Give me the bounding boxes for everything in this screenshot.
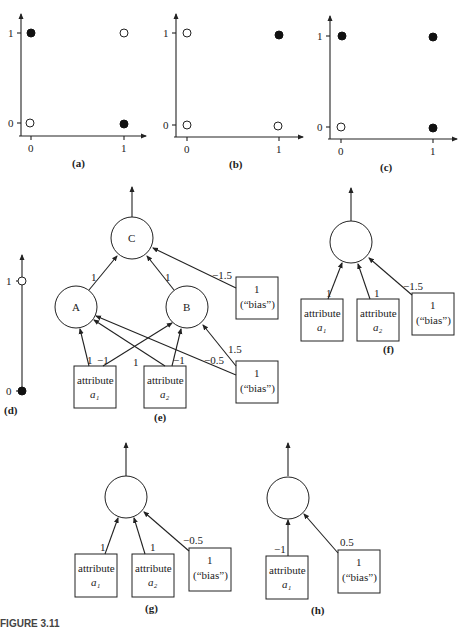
svg-text:1: 1	[87, 354, 93, 366]
output-node	[105, 476, 147, 518]
svg-text:a₁: a₁	[282, 578, 292, 590]
svg-text:attribute: attribute	[304, 307, 341, 319]
svg-text:a₂: a₂	[160, 388, 170, 400]
panel-label-b: (b)	[229, 158, 243, 171]
x-tick-1: 1	[430, 145, 436, 157]
node-C-label: C	[128, 232, 135, 244]
point-open	[274, 122, 282, 130]
network-g: attribute a₁ attribute a₂ 1 (“bias”) 1 1…	[75, 443, 231, 615]
input-a2	[144, 366, 186, 408]
panel-label-h: (h)	[311, 604, 325, 617]
panel-label-d: (d)	[4, 404, 18, 417]
svg-text:a₁: a₁	[90, 388, 100, 400]
svg-text:1: 1	[254, 367, 260, 379]
svg-text:1: 1	[326, 287, 332, 299]
svg-text:1: 1	[374, 287, 380, 299]
svg-text:(“bias”): (“bias”)	[193, 569, 228, 582]
output-node	[267, 477, 309, 519]
plot-b: 1 0 0 1 (b)	[163, 14, 303, 171]
x-tick-0: 0	[338, 145, 344, 157]
tick-0: 0	[6, 385, 12, 397]
svg-text:−1.5: −1.5	[212, 269, 232, 281]
svg-text:a₂: a₂	[148, 576, 158, 588]
svg-text:1.5: 1.5	[228, 343, 242, 355]
svg-text:1: 1	[165, 271, 171, 283]
point-open	[183, 121, 191, 129]
panel-label-g: (g)	[145, 602, 158, 615]
svg-text:a₂: a₂	[373, 321, 383, 333]
y-tick-0: 0	[317, 121, 323, 133]
point-open	[120, 29, 128, 37]
point-open	[337, 123, 345, 131]
plot-c: 1 0 0 1 (c)	[317, 16, 457, 174]
panel-label-a: (a)	[72, 157, 85, 170]
svg-text:1: 1	[133, 356, 139, 368]
figure-caption: FIGURE 3.11	[0, 618, 60, 628]
svg-text:attribute: attribute	[77, 374, 114, 386]
svg-text:attribute: attribute	[78, 562, 115, 574]
point-open	[183, 29, 191, 37]
point-filled	[275, 31, 283, 39]
point-filled	[27, 29, 35, 37]
x-tick-1: 1	[276, 143, 282, 155]
svg-text:1: 1	[430, 299, 436, 311]
svg-text:−0.5: −0.5	[183, 534, 203, 546]
output-node	[330, 221, 372, 263]
network-e: C A B attribute a₁ attribute a₂ 1 (“bias…	[55, 187, 278, 424]
input-a2	[357, 299, 399, 341]
point-open	[18, 277, 26, 285]
point-filled	[429, 124, 437, 132]
svg-text:1: 1	[100, 541, 106, 553]
y-tick-1: 1	[317, 30, 323, 42]
svg-text:1: 1	[91, 271, 97, 283]
plot-d: 1 0 (d)	[4, 255, 26, 417]
panel-label-e: (e)	[154, 411, 167, 424]
svg-text:a₁: a₁	[317, 321, 327, 333]
plot-a: 1 0 0 1 (a)	[8, 14, 146, 170]
node-A-label: A	[72, 301, 80, 313]
x-tick-1: 1	[121, 142, 127, 154]
svg-text:attribute: attribute	[269, 564, 306, 576]
network-f: attribute a₁ attribute a₂ 1 (“bias”) 1 1…	[301, 188, 454, 356]
point-filled	[120, 120, 128, 128]
network-h: attribute a₁ 1 (“bias”) −1 0.5 (h)	[266, 443, 380, 617]
svg-text:0.5: 0.5	[340, 536, 354, 548]
y-tick-1: 1	[163, 27, 169, 39]
point-open	[26, 119, 34, 127]
svg-text:−1.5: −1.5	[403, 280, 423, 292]
svg-text:−1: −1	[173, 354, 185, 366]
panel-label-f: (f)	[383, 343, 394, 356]
x-tick-0: 0	[184, 143, 190, 155]
svg-text:(“bias”): (“bias”)	[416, 314, 451, 327]
svg-text:(“bias”): (“bias”)	[342, 571, 377, 584]
svg-text:attribute: attribute	[147, 374, 184, 386]
svg-text:−1: −1	[274, 543, 286, 555]
tick-1: 1	[6, 275, 12, 287]
x-tick-0: 0	[28, 142, 34, 154]
svg-text:−0.5: −0.5	[204, 354, 224, 366]
figure-canvas: 1 0 0 1 (a) 1 0 0 1 (b) 1 0 0	[0, 0, 463, 628]
y-tick-1: 1	[8, 27, 14, 39]
svg-text:attribute: attribute	[135, 562, 172, 574]
svg-text:1: 1	[150, 541, 156, 553]
svg-text:1: 1	[356, 556, 362, 568]
point-filled	[18, 387, 26, 395]
point-filled	[338, 32, 346, 40]
svg-text:attribute: attribute	[360, 307, 397, 319]
svg-text:1: 1	[207, 554, 213, 566]
y-tick-0: 0	[163, 119, 169, 131]
panel-label-c: (c)	[380, 161, 393, 174]
svg-text:1: 1	[254, 283, 260, 295]
svg-text:−1: −1	[97, 354, 109, 366]
svg-text:a₁: a₁	[91, 576, 101, 588]
node-B-label: B	[183, 301, 190, 313]
input-a1	[74, 366, 116, 408]
y-tick-0: 0	[8, 117, 14, 129]
point-filled	[429, 33, 437, 41]
svg-text:(“bias”): (“bias”)	[240, 298, 275, 311]
svg-text:(“bias”): (“bias”)	[240, 382, 275, 395]
input-a1	[301, 299, 343, 341]
